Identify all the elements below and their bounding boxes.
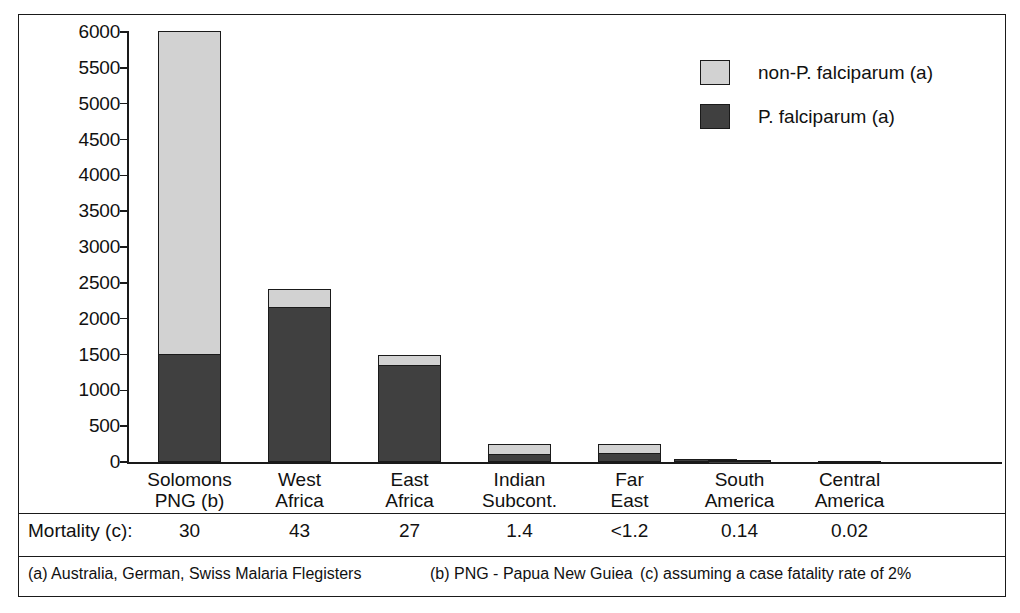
- y-tick-label: 5500: [52, 58, 120, 77]
- y-tick-label-text: 5500: [60, 58, 120, 77]
- y-tick-label-text: 4000: [60, 165, 120, 184]
- mortality-value-0: 30: [130, 521, 250, 540]
- bar-solomons-png-b: [158, 31, 221, 462]
- y-tick-mark: [120, 210, 128, 212]
- y-tick-label: 1500: [52, 345, 120, 364]
- y-tick-label: 5000: [52, 94, 120, 113]
- bar-far-east: [598, 444, 661, 462]
- y-tick-label: 2500: [52, 273, 120, 292]
- legend-item-non-p-falciparum: non-P. falciparum (a): [700, 60, 933, 85]
- mortality-value-5: 0.14: [680, 521, 800, 540]
- y-tick-label-text: 3000: [60, 237, 120, 256]
- y-tick-mark: [120, 425, 128, 427]
- bar-segment-non-p-falciparum: [158, 31, 221, 354]
- y-tick-label: 2000: [52, 309, 120, 328]
- bar-segment-non-p-falciparum: [378, 355, 441, 366]
- bar-segment-p-falciparum: [708, 462, 771, 464]
- y-tick-label: 500: [52, 416, 120, 435]
- legend-item-p-falciparum: P. falciparum (a): [700, 104, 933, 129]
- footnote-2: (c) assuming a case fatality rate of 2%: [640, 565, 911, 583]
- footnote-0: (a) Australia, German, Swiss Malaria Fle…: [28, 565, 361, 583]
- bar-indian-subcont: [488, 444, 551, 462]
- y-tick-label: 3500: [52, 201, 120, 220]
- mortality-row-label: Mortality (c):: [28, 521, 133, 540]
- bar-segment-p-falciparum: [378, 366, 441, 462]
- category-label-line2: America: [780, 490, 920, 511]
- y-tick-mark: [120, 390, 128, 392]
- y-tick-label-text: 4500: [60, 130, 120, 149]
- y-tick-label-text: 500: [60, 416, 120, 435]
- y-tick-label: 0: [52, 452, 120, 471]
- bar-segment-p-falciparum: [158, 355, 221, 463]
- y-tick-mark: [120, 246, 128, 248]
- y-tick-mark: [120, 67, 128, 69]
- y-tick-label-text: 0: [60, 452, 120, 471]
- mortality-value-3: 1.4: [460, 521, 580, 540]
- mortality-value-2: 27: [350, 521, 470, 540]
- y-tick-mark: [120, 175, 128, 177]
- legend-label-p-falciparum: P. falciparum (a): [758, 107, 895, 126]
- y-tick-mark: [120, 282, 128, 284]
- bar-south-america: [708, 460, 771, 463]
- y-tick-mark: [120, 354, 128, 356]
- bar-segment-p-falciparum: [268, 308, 331, 462]
- bar-east-africa: [378, 355, 441, 462]
- y-tick-mark: [120, 103, 128, 105]
- legend-label-non-p-falciparum: non-P. falciparum (a): [758, 63, 933, 82]
- chart-legend: non-P. falciparum (a) P. falciparum (a): [700, 60, 933, 148]
- y-tick-mark: [120, 31, 128, 33]
- bar-segment-non-p-falciparum: [488, 444, 551, 455]
- table-separator-top: [19, 513, 1005, 514]
- plot-area: 6000550050004500400035003000250020001500…: [0, 0, 1020, 613]
- y-tick-mark: [120, 139, 128, 141]
- mortality-value-4: <1.2: [570, 521, 690, 540]
- y-tick-label: 6000: [52, 22, 120, 41]
- table-separator-bottom: [19, 556, 1005, 557]
- footnote-1: (b) PNG - Papua New Guiea: [430, 565, 633, 583]
- bar-segment-p-falciparum: [818, 463, 881, 464]
- bar-central-america: [818, 461, 881, 462]
- y-tick-label-text: 5000: [60, 94, 120, 113]
- bar-segment-non-p-falciparum: [268, 289, 331, 308]
- legend-swatch-light: [700, 60, 730, 85]
- chart-figure: 6000550050004500400035003000250020001500…: [0, 0, 1020, 613]
- bar-segment-p-falciparum: [598, 454, 661, 462]
- bar-segment-p-falciparum: [488, 455, 551, 462]
- y-tick-label-text: 1000: [60, 380, 120, 399]
- y-tick-label-text: 6000: [60, 22, 120, 41]
- y-tick-label-text: 1500: [60, 345, 120, 364]
- legend-swatch-dark: [700, 104, 730, 129]
- y-tick-label: 4500: [52, 130, 120, 149]
- y-tick-label-text: 2000: [60, 309, 120, 328]
- bar-west-africa: [268, 289, 331, 462]
- y-tick-mark: [120, 318, 128, 320]
- y-tick-label: 1000: [52, 380, 120, 399]
- y-tick-label: 3000: [52, 237, 120, 256]
- y-tick-mark: [120, 461, 128, 463]
- mortality-value-6: 0.02: [790, 521, 910, 540]
- y-tick-label-text: 2500: [60, 273, 120, 292]
- mortality-value-1: 43: [240, 521, 360, 540]
- category-label-6: CentralAmerica: [780, 469, 920, 511]
- y-tick-label: 4000: [52, 165, 120, 184]
- category-label-line1: Central: [780, 469, 920, 490]
- bar-segment-non-p-falciparum: [598, 444, 661, 454]
- y-tick-label-text: 3500: [60, 201, 120, 220]
